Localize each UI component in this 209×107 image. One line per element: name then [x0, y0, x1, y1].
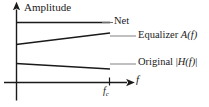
legend-label-original: Original |H(f)| [138, 57, 197, 68]
legend-original-argument: (f) [185, 56, 195, 67]
x-tick-label-fc: fc [103, 86, 109, 98]
legend-label-equalizer: Equalizer A(f) [138, 30, 197, 41]
series-original-line [16, 64, 110, 70]
legend-original-bar-right: | [195, 56, 197, 67]
legend-equalizer-argument: (f) [187, 29, 197, 40]
legend-label-net: Net [114, 16, 129, 27]
x-axis-title: f [136, 74, 139, 85]
legend-original-prefix: Original [138, 56, 176, 67]
y-axis-title: Amplitude [24, 2, 71, 13]
series-equalizer-line [16, 33, 110, 45]
equalizer-response-figure: Amplitude Net Equalizer A(f) Original |H… [0, 0, 209, 107]
legend-equalizer-prefix: Equalizer [138, 29, 181, 40]
x-tick-label-subscript: c [106, 90, 109, 97]
